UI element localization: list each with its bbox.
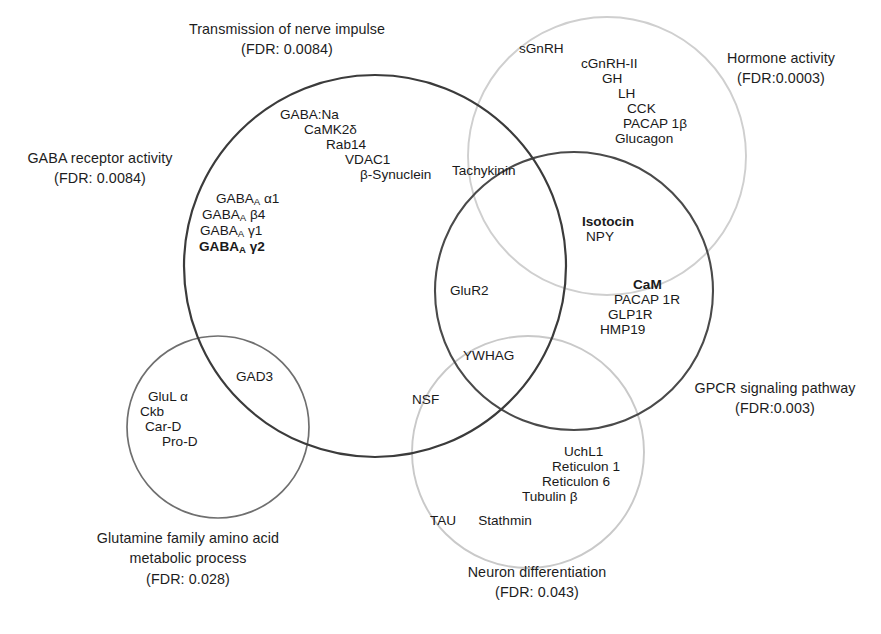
gene-group-transmission-neuron-intersection: NSF <box>412 392 439 407</box>
gene-group-gaba-receptor-activity: GABAA α1 GABAA β4 GABAA γ1 GABAA γ2 <box>202 191 279 255</box>
gene-glp1r: GLP1R <box>608 307 680 322</box>
set-label-neuron-differentiation: Neuron differentiation (FDR: 0.043) <box>468 562 607 603</box>
gene-gabaa-gamma2-subscript: A <box>239 244 246 255</box>
gene-cck: CCK <box>627 101 687 116</box>
gene-gabaa-beta4: GABAA β4 <box>202 207 279 223</box>
gene-gh: GH <box>602 71 687 86</box>
set-label-gaba-fdr: (FDR: 0.0084) <box>27 168 172 188</box>
gene-cam: CaM <box>633 277 680 292</box>
gene-uchl1: UchL1 <box>564 444 620 459</box>
set-label-gpcr-fdr: (FDR:0.003) <box>694 398 855 418</box>
gene-group-neuron-only: UchL1 Reticulon 1 Reticulon 6 Tubulin β <box>552 444 620 504</box>
gene-ckb: Ckb <box>140 404 198 419</box>
gene-camk2delta: CaMK2δ <box>304 122 431 137</box>
set-label-gpcr-name: GPCR signaling pathway <box>694 378 855 398</box>
gene-beta-synuclein: β-Synuclein <box>360 167 431 182</box>
gene-car-d: Car-D <box>145 419 198 434</box>
gene-sgnrh: sGnRH <box>519 41 687 56</box>
gene-group-transmission-glutamine-intersection: GAD3 <box>236 369 273 384</box>
set-label-hormone-activity: Hormone activity (FDR:0.0003) <box>727 48 835 89</box>
gene-gabaa-beta4-suffix: β4 <box>246 207 265 222</box>
gene-reticulon-1: Reticulon 1 <box>552 459 620 474</box>
gene-gabaa-alpha1-suffix: α1 <box>260 191 279 206</box>
gene-vdac1: VDAC1 <box>345 152 431 167</box>
gene-tubulin-beta: Tubulin β <box>522 489 620 504</box>
gene-group-transmission-only: GABA:Na CaMK2δ Rab14 VDAC1 β-Synuclein <box>280 107 431 182</box>
gene-group-glutamine-only: GluL α Ckb Car-D Pro-D <box>140 389 198 449</box>
gene-isotocin: Isotocin <box>582 214 634 229</box>
gene-group-hormone-gpcr-intersection: Isotocin NPY <box>572 214 634 244</box>
gene-hmp19: HMP19 <box>600 322 680 337</box>
set-label-glutamine-family-metabolic-process: Glutamine family amino acid metabolic pr… <box>97 528 279 589</box>
set-label-hormone-name: Hormone activity <box>727 48 835 68</box>
gene-pacap-1r: PACAP 1R <box>614 292 680 307</box>
gene-gabaa-gamma1: GABAA γ1 <box>200 223 279 239</box>
gene-lh: LH <box>618 86 687 101</box>
set-label-gaba-name: GABA receptor activity <box>27 148 172 168</box>
set-label-transmission-fdr: (FDR: 0.0084) <box>189 39 385 59</box>
set-label-gpcr-signaling-pathway: GPCR signaling pathway (FDR:0.003) <box>694 378 855 419</box>
set-label-gaba-receptor-activity: GABA receptor activity (FDR: 0.0084) <box>27 148 172 189</box>
venn-diagram-figure: Transmission of nerve impulse (FDR: 0.00… <box>0 0 881 634</box>
gene-gabaa-gamma2: GABAA γ2 <box>199 239 279 255</box>
set-label-transmission-name: Transmission of nerve impulse <box>189 19 385 39</box>
gene-gabaa-beta4-prefix: GABA <box>202 207 240 222</box>
gene-rab14: Rab14 <box>326 137 431 152</box>
gene-group-transmission-gpcr-neuron-intersection: YWHAG <box>463 348 514 363</box>
gene-glucagon: Glucagon <box>615 131 687 146</box>
gene-gabaa-gamma1-prefix: GABA <box>200 223 238 238</box>
gene-ywhag: YWHAG <box>463 348 514 363</box>
gene-group-neuron-only-bottom-row: TAUStathmin <box>430 513 532 528</box>
gene-group-hormone-activity-only: sGnRH cGnRH-II GH LH CCK PACAP 1β Glucag… <box>519 41 687 146</box>
gene-tachykinin: Tachykinin <box>452 163 515 178</box>
set-label-hormone-fdr: (FDR:0.0003) <box>727 68 835 88</box>
set-label-glutamine-name-line2: metabolic process <box>97 548 279 568</box>
set-label-glutamine-name-line1: Glutamine family amino acid <box>97 528 279 548</box>
set-label-glutamine-fdr: (FDR: 0.028) <box>97 569 279 589</box>
gene-pacap-1beta: PACAP 1β <box>623 116 687 131</box>
gene-tau: TAU <box>430 513 456 528</box>
gene-gad3: GAD3 <box>236 369 273 384</box>
gene-group-transmission-gpcr-intersection: GluR2 <box>450 283 489 298</box>
gene-pro-d: Pro-D <box>162 434 198 449</box>
gene-stathmin: Stathmin <box>478 513 532 528</box>
gene-npy: NPY <box>586 229 634 244</box>
gene-gabaa-gamma1-suffix: γ1 <box>244 223 262 238</box>
gene-nsf: NSF <box>412 392 439 407</box>
gene-group-gpcr-only: CaM PACAP 1R GLP1R HMP19 <box>600 277 680 337</box>
set-label-transmission-of-nerve-impulse: Transmission of nerve impulse (FDR: 0.00… <box>189 19 385 60</box>
gene-group-transmission-hormone-intersection: Tachykinin <box>452 163 515 178</box>
gene-gaba-na: GABA:Na <box>280 107 431 122</box>
gene-gabaa-alpha1-prefix: GABA <box>216 191 254 206</box>
set-label-neuron-fdr: (FDR: 0.043) <box>468 582 607 602</box>
set-label-neuron-name: Neuron differentiation <box>468 562 607 582</box>
gene-gabaa-gamma2-suffix: γ2 <box>246 239 265 254</box>
gene-glul-alpha: GluL α <box>148 389 198 404</box>
gene-glur2: GluR2 <box>450 283 489 298</box>
gene-tau-stathmin-row: TAUStathmin <box>430 513 532 528</box>
gene-gabaa-gamma2-prefix: GABA <box>199 239 239 254</box>
gene-gabaa-alpha1: GABAA α1 <box>216 191 279 207</box>
gene-reticulon-6: Reticulon 6 <box>542 474 620 489</box>
gene-cgnrh-ii: cGnRH-II <box>581 56 687 71</box>
